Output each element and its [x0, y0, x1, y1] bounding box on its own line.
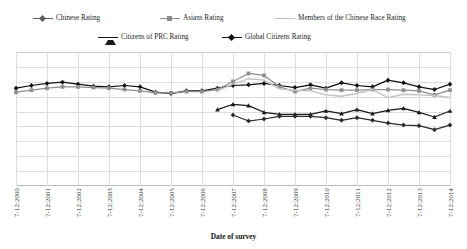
data-point-square [386, 88, 390, 92]
data-point-square [14, 90, 18, 94]
x-tick-label: 7-12:2009 [292, 188, 299, 217]
x-tick-label: 7-12:2003 [106, 188, 113, 217]
data-point-diamond [417, 123, 422, 128]
line-marker [275, 14, 295, 23]
x-tick-label: 7-12:2004 [137, 188, 144, 217]
data-point-square [355, 88, 359, 92]
data-point-diamond [60, 80, 65, 85]
x-tick-label: 7-12:2011 [354, 188, 361, 217]
legend-label: Members of the Chinese Race Rating [298, 15, 406, 22]
data-point-diamond [401, 123, 406, 128]
data-point-square [448, 88, 452, 92]
series-layer [16, 52, 450, 186]
data-point-diamond [138, 84, 143, 89]
data-point-diamond [293, 85, 298, 90]
data-point-square [200, 90, 204, 94]
chart-legend: Chinese RatingAsians RatingMembers of th… [0, 0, 467, 48]
data-point-diamond [246, 82, 251, 87]
data-point-square [309, 86, 313, 90]
legend-item-2[interactable]: Members of the Chinese Race Rating [275, 14, 406, 23]
chart-page: Chinese RatingAsians RatingMembers of th… [0, 0, 467, 249]
legend-label: Citizens of PRC Rating [121, 34, 189, 41]
data-point-diamond [355, 83, 360, 88]
data-point-square [340, 88, 344, 92]
x-tick-label: 7-12:2007 [230, 188, 237, 217]
data-point-square [231, 80, 235, 84]
data-point-diamond [339, 80, 344, 85]
data-point-square [154, 91, 158, 95]
data-point-diamond [417, 84, 422, 89]
legend-item-3[interactable]: Citizens of PRC Rating [98, 33, 189, 42]
legend-item-0[interactable]: Chinese Rating [33, 14, 100, 23]
square-marker [160, 14, 180, 23]
data-point-diamond [448, 123, 453, 128]
legend-label: Chinese Rating [56, 15, 100, 22]
data-point-square [76, 85, 80, 89]
data-point-diamond [386, 121, 391, 126]
legend-label: Global Citizens Rating [245, 34, 311, 41]
data-point-square [324, 88, 328, 92]
data-point-square [169, 91, 173, 95]
x-tick-label: 7-12:2012 [385, 188, 392, 217]
x-tick-label: 7-12:2002 [75, 188, 82, 217]
data-point-diamond [324, 115, 329, 120]
data-point-square [45, 86, 49, 90]
data-point-square [107, 86, 111, 90]
x-tick-label: 7-12:2000 [13, 188, 20, 217]
legend-item-1[interactable]: Asians Rating [160, 14, 224, 23]
data-point-square [123, 88, 127, 92]
data-point-square [402, 88, 406, 92]
data-point-square [262, 74, 266, 78]
data-point-diamond [339, 118, 344, 123]
data-point-diamond [29, 83, 34, 88]
legend-label: Asians Rating [183, 15, 224, 22]
x-tick-label: 7-12:2005 [168, 188, 175, 217]
x-tick-label: 7-12:2010 [323, 188, 330, 217]
data-point-diamond [14, 86, 19, 91]
triangle-marker [98, 33, 118, 42]
data-point-square [185, 90, 189, 94]
data-point-diamond [122, 83, 127, 88]
series-3 [215, 102, 452, 119]
data-point-triangle [448, 109, 453, 113]
diamond-marker [222, 33, 242, 42]
data-point-diamond [246, 119, 251, 124]
data-point-diamond [45, 81, 50, 86]
data-point-diamond [432, 127, 437, 132]
data-point-diamond [370, 118, 375, 123]
data-point-square [92, 86, 96, 90]
x-tick-label: 7-12:2001 [44, 188, 51, 217]
data-point-square [417, 89, 421, 93]
x-tick-label: 7-12:2014 [447, 188, 454, 217]
plot-area [16, 52, 450, 186]
x-tick-label: 7-12:2006 [199, 188, 206, 217]
data-point-square [61, 85, 65, 89]
x-axis-tick-labels: 7-12:20007-12:20017-12:20027-12:20037-12… [16, 188, 450, 232]
data-point-diamond [231, 112, 236, 117]
data-point-diamond [432, 87, 437, 92]
x-tick-label: 7-12:2008 [261, 188, 268, 217]
data-point-diamond [448, 82, 453, 87]
legend-item-4[interactable]: Global Citizens Rating [222, 33, 311, 42]
x-tick-label: 7-12:2013 [416, 188, 423, 217]
data-point-diamond [386, 78, 391, 83]
data-point-diamond [262, 117, 267, 122]
diamond-marker [33, 14, 53, 23]
data-point-diamond [355, 115, 360, 120]
x-axis-title: Date of survey [0, 232, 467, 241]
data-point-diamond [401, 80, 406, 85]
data-point-square [30, 88, 34, 92]
series-2 [218, 79, 451, 98]
data-point-square [138, 89, 142, 93]
gridline-vertical [450, 52, 451, 186]
series-line [218, 104, 451, 117]
data-point-square [247, 72, 251, 76]
series-line [218, 79, 451, 98]
